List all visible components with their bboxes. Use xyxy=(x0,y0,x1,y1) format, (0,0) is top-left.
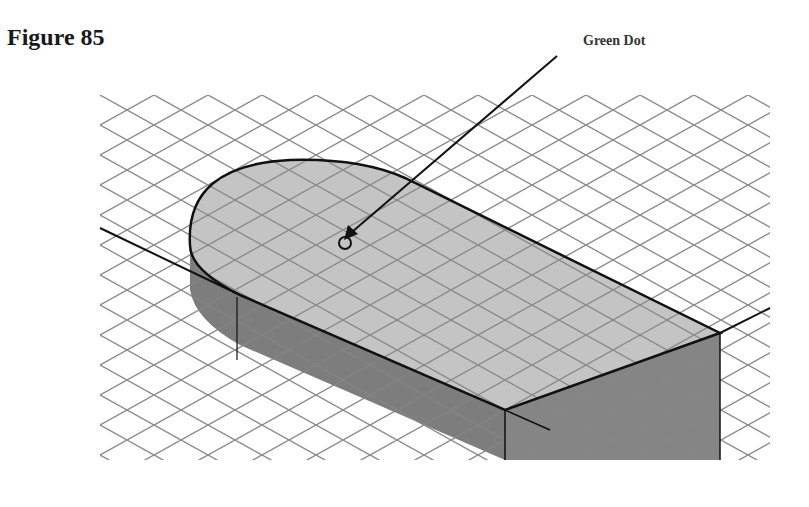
isometric-model-diagram xyxy=(0,0,809,507)
